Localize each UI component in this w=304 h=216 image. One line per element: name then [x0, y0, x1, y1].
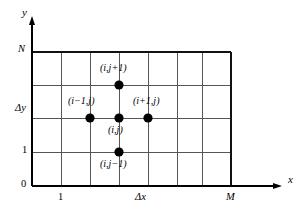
- x-axis-label: x: [288, 174, 293, 185]
- y-axis-arrowhead: [29, 16, 35, 25]
- node-center-dot: [114, 113, 123, 122]
- x-tick-label-1: 1: [58, 192, 63, 203]
- node-center-label: (i,j): [108, 125, 123, 135]
- node-east-label: (i+1,j): [133, 96, 159, 106]
- node-south-dot: [114, 147, 123, 156]
- node-east-dot: [143, 113, 152, 122]
- node-south-label: (i,j−1): [100, 159, 126, 169]
- figure-canvas: [0, 0, 304, 216]
- x-tick-label-delta-x: Δx: [135, 192, 146, 203]
- y-tick-label-0: 0: [21, 179, 26, 190]
- y-axis-label: y: [22, 7, 27, 18]
- y-tick-label-delta-y: Δy: [15, 103, 26, 114]
- node-west-dot: [85, 113, 94, 122]
- y-axis: [29, 16, 35, 186]
- grid-lines: [32, 52, 231, 186]
- y-tick-label-N: N: [18, 44, 25, 55]
- node-west-label: (i−1,j): [68, 96, 94, 106]
- x-axis: [32, 183, 282, 189]
- node-north-dot: [114, 80, 123, 89]
- node-north-label: (i,j+1): [100, 63, 126, 73]
- y-tick-label-1: 1: [22, 145, 27, 156]
- x-tick-label-M: M: [226, 192, 235, 203]
- grid-boundary: [32, 52, 231, 186]
- finite-difference-grid-figure: y x N Δy 1 0 1 Δx M (i,j+1) (i−1,j) (i+1…: [0, 0, 304, 216]
- x-axis-arrowhead: [273, 183, 282, 189]
